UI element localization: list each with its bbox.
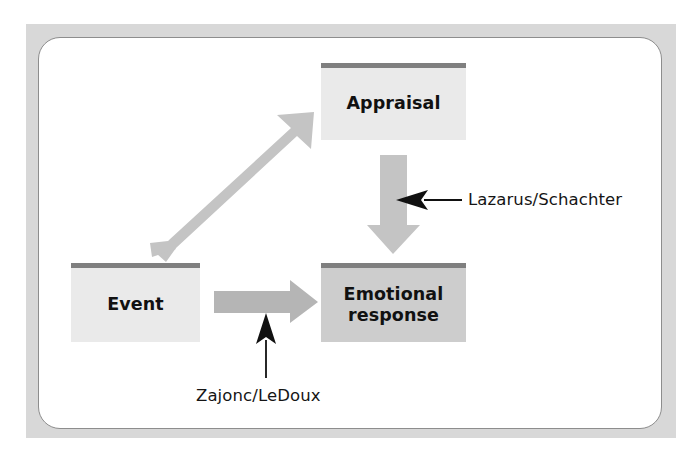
node-event-label: Event <box>107 290 164 315</box>
annotation-label-zajonc: Zajonc/LeDoux <box>196 386 321 405</box>
annotation-arrow-lazarus <box>396 190 462 210</box>
annotation-arrow-layer <box>0 0 698 456</box>
emotion-model-figure: Appraisal Event Emotional response Lazar… <box>0 0 698 456</box>
annotation-label-lazarus: Lazarus/Schachter <box>468 190 622 209</box>
node-emotional-response-label: Emotional response <box>344 280 444 325</box>
annotation-arrow-zajonc <box>256 313 276 378</box>
node-emotional-response-label-line1: Emotional <box>344 284 444 304</box>
node-appraisal-label: Appraisal <box>346 89 440 114</box>
node-emotional-response-label-line2: response <box>348 305 439 325</box>
